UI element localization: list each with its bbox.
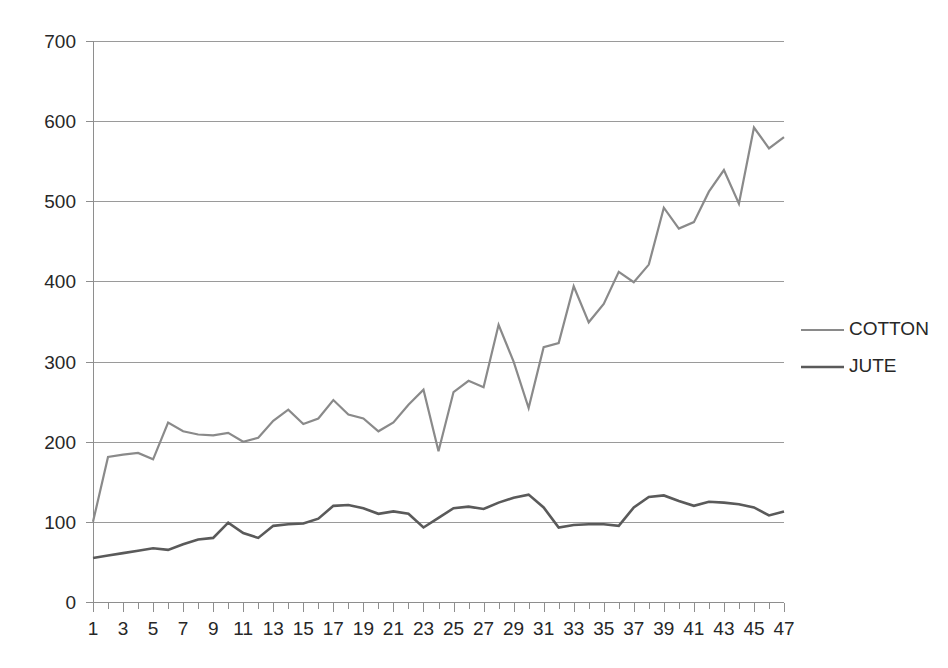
x-tick-label-17: 17 — [323, 618, 344, 639]
x-tick-label-7: 7 — [178, 618, 189, 639]
chart-legend: COTTONJUTE — [801, 318, 929, 376]
series-line-cotton — [93, 128, 784, 522]
x-tick-label-47: 47 — [773, 618, 794, 639]
x-tick-label-9: 9 — [208, 618, 219, 639]
y-tick-label-700: 700 — [44, 31, 76, 52]
x-tick-label-35: 35 — [593, 618, 614, 639]
series-line-jute — [93, 495, 784, 558]
x-tick-label-21: 21 — [383, 618, 404, 639]
x-tick-label-3: 3 — [118, 618, 129, 639]
x-tick-label-19: 19 — [353, 618, 374, 639]
tickmarks — [86, 42, 785, 612]
x-tick-label-5: 5 — [148, 618, 159, 639]
x-tick-label-15: 15 — [293, 618, 314, 639]
y-tick-label-300: 300 — [44, 352, 76, 373]
y-tick-label-100: 100 — [44, 512, 76, 533]
y-tick-label-600: 600 — [44, 111, 76, 132]
x-tick-label-11: 11 — [233, 618, 253, 639]
legend-label-jute: JUTE — [849, 355, 897, 376]
x-tick-label-37: 37 — [623, 618, 644, 639]
x-tick-label-39: 39 — [653, 618, 674, 639]
y-tick-label-0: 0 — [65, 592, 76, 613]
y-axis-tick-labels: 0100200300400500600700 — [44, 31, 76, 613]
legend-label-cotton: COTTON — [849, 318, 929, 339]
x-tick-label-25: 25 — [443, 618, 464, 639]
x-tick-label-13: 13 — [263, 618, 284, 639]
y-tick-label-200: 200 — [44, 432, 76, 453]
y-tick-label-400: 400 — [44, 271, 76, 292]
x-tick-label-43: 43 — [713, 618, 734, 639]
x-tick-label-31: 31 — [533, 618, 554, 639]
x-tick-label-45: 45 — [743, 618, 764, 639]
x-tick-label-27: 27 — [473, 618, 494, 639]
chart-canvas: 0100200300400500600700 13579111315171921… — [0, 0, 948, 668]
x-tick-label-29: 29 — [503, 618, 524, 639]
x-tick-label-33: 33 — [563, 618, 584, 639]
data-series — [93, 128, 784, 558]
line-chart: 0100200300400500600700 13579111315171921… — [0, 0, 948, 668]
x-tick-label-41: 41 — [683, 618, 704, 639]
x-axis-tick-labels: 1357911131517192123252729313335373941434… — [88, 618, 795, 639]
x-tick-label-1: 1 — [88, 618, 99, 639]
x-tick-label-23: 23 — [413, 618, 434, 639]
y-tick-label-500: 500 — [44, 191, 76, 212]
